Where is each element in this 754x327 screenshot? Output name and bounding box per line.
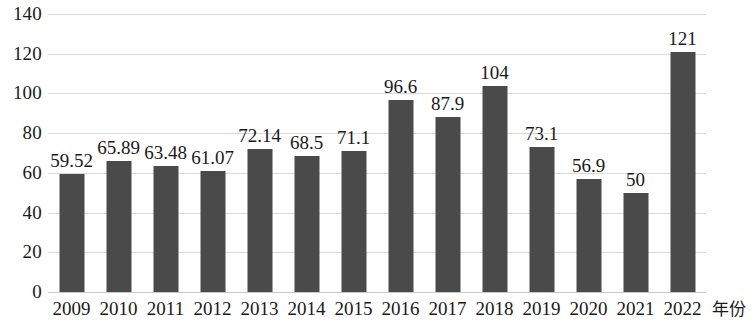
bar-value-label: 61.07 bbox=[191, 148, 234, 167]
bar-value-label: 50 bbox=[626, 170, 645, 189]
bar-value-label: 68.5 bbox=[290, 133, 323, 152]
y-tick-label: 40 bbox=[0, 203, 42, 222]
x-axis-title: 年份 bbox=[712, 299, 746, 321]
bar[interactable] bbox=[200, 171, 225, 292]
bar-slot: 63.48 bbox=[142, 14, 189, 292]
y-tick-label: 100 bbox=[0, 83, 42, 102]
x-tick-label: 2017 bbox=[424, 298, 471, 320]
bar[interactable] bbox=[482, 86, 507, 293]
bar[interactable] bbox=[294, 156, 319, 292]
bar-value-label: 63.48 bbox=[144, 143, 187, 162]
bar-slot: 71.1 bbox=[330, 14, 377, 292]
bar[interactable] bbox=[388, 100, 413, 292]
x-tick-label: 2011 bbox=[142, 298, 189, 320]
bar-slot: 65.89 bbox=[95, 14, 142, 292]
bar-slot: 61.07 bbox=[189, 14, 236, 292]
x-tick-label: 2009 bbox=[48, 298, 95, 320]
bar-slot: 68.5 bbox=[283, 14, 330, 292]
x-tick-label: 2019 bbox=[518, 298, 565, 320]
bar-slot: 121 bbox=[659, 14, 706, 292]
bar-slot: 72.14 bbox=[236, 14, 283, 292]
bar[interactable] bbox=[623, 193, 648, 292]
bar-value-label: 65.89 bbox=[97, 138, 140, 157]
bar-value-label: 104 bbox=[480, 63, 509, 82]
bar[interactable] bbox=[529, 147, 554, 292]
bar-slot: 104 bbox=[471, 14, 518, 292]
y-tick-label: 0 bbox=[0, 282, 42, 301]
bar[interactable] bbox=[435, 117, 460, 292]
bar-value-label: 87.9 bbox=[431, 94, 464, 113]
bar-value-label: 96.6 bbox=[384, 77, 417, 96]
bar-chart: 59.5265.8963.4861.0772.1468.571.196.687.… bbox=[0, 0, 754, 327]
bar-value-label: 71.1 bbox=[337, 128, 370, 147]
bar[interactable] bbox=[59, 174, 84, 292]
x-tick-label: 2021 bbox=[612, 298, 659, 320]
bar-slot: 59.52 bbox=[48, 14, 95, 292]
x-tick-label: 2013 bbox=[236, 298, 283, 320]
x-tick-label: 2020 bbox=[565, 298, 612, 320]
y-tick-label: 80 bbox=[0, 123, 42, 142]
bar[interactable] bbox=[341, 151, 366, 292]
x-tick-label: 2022 bbox=[659, 298, 706, 320]
y-tick-label: 140 bbox=[0, 4, 42, 23]
bar-value-label: 59.52 bbox=[50, 151, 93, 170]
bar-slot: 96.6 bbox=[377, 14, 424, 292]
x-tick-label: 2012 bbox=[189, 298, 236, 320]
x-tick-label: 2016 bbox=[377, 298, 424, 320]
x-tick-label: 2010 bbox=[95, 298, 142, 320]
bar[interactable] bbox=[106, 161, 131, 292]
bar[interactable] bbox=[153, 166, 178, 292]
bar-value-label: 56.9 bbox=[572, 156, 605, 175]
bar-slot: 50 bbox=[612, 14, 659, 292]
x-tick-label: 2015 bbox=[330, 298, 377, 320]
bar-value-label: 73.1 bbox=[525, 124, 558, 143]
bar-slot: 56.9 bbox=[565, 14, 612, 292]
plot-area: 59.5265.8963.4861.0772.1468.571.196.687.… bbox=[48, 14, 706, 292]
bar-slot: 87.9 bbox=[424, 14, 471, 292]
y-tick-label: 120 bbox=[0, 44, 42, 63]
y-tick-label: 20 bbox=[0, 242, 42, 261]
y-tick-label: 60 bbox=[0, 163, 42, 182]
bar[interactable] bbox=[670, 52, 695, 292]
bar-value-label: 121 bbox=[668, 29, 697, 48]
gridline bbox=[48, 292, 706, 293]
bar-value-label: 72.14 bbox=[238, 126, 281, 145]
x-tick-label: 2018 bbox=[471, 298, 518, 320]
x-tick-label: 2014 bbox=[283, 298, 330, 320]
bar[interactable] bbox=[576, 179, 601, 292]
bar-slot: 73.1 bbox=[518, 14, 565, 292]
bar[interactable] bbox=[247, 149, 272, 292]
